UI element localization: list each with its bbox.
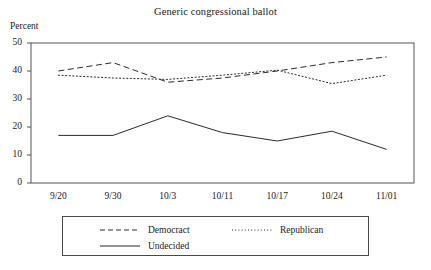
series-line-democract	[58, 57, 386, 82]
y-tick-label: 50	[0, 37, 22, 47]
plot-frame	[31, 43, 414, 183]
legend-item-undecided: Undecided	[99, 239, 189, 253]
x-tick-label: 9/20	[28, 191, 88, 201]
solid-line-icon	[99, 241, 141, 251]
series-line-republican	[58, 70, 386, 83]
x-tick-label: 10/3	[138, 191, 198, 201]
chart-legend: Democract Republican Undecided	[62, 216, 369, 256]
x-tick-label: 10/11	[193, 191, 253, 201]
x-tick-label: 11/01	[357, 191, 417, 201]
y-tick-label: 0	[0, 177, 22, 187]
y-tick-label: 30	[0, 93, 22, 103]
legend-label-democrat: Democract	[148, 225, 190, 235]
x-tick-label: 10/24	[302, 191, 362, 201]
legend-item-republican: Republican	[231, 223, 323, 237]
y-tick-label: 20	[0, 121, 22, 131]
axis-ticks	[27, 43, 31, 183]
legend-item-democrat: Democract	[99, 223, 190, 237]
dashed-line-icon	[99, 225, 141, 235]
chart-container: Generic congressional ballot Percent 504…	[0, 0, 431, 270]
y-tick-label: 10	[0, 149, 22, 159]
dotted-line-icon	[231, 225, 273, 235]
x-tick-label: 9/30	[83, 191, 143, 201]
series-line-undecided	[58, 116, 386, 150]
y-tick-label: 40	[0, 65, 22, 75]
legend-label-undecided: Undecided	[148, 241, 189, 251]
data-series-group	[58, 57, 386, 149]
x-tick-label: 10/17	[247, 191, 307, 201]
legend-label-republican: Republican	[280, 225, 323, 235]
